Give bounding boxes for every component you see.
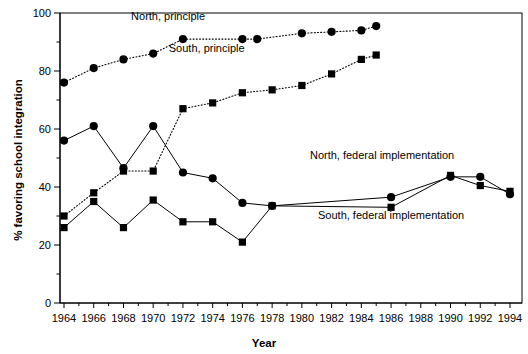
data-point-marker [60, 137, 68, 145]
data-point-marker [328, 28, 336, 36]
series-label: South, principle [169, 42, 245, 54]
data-point-marker [253, 35, 261, 43]
data-point-marker [358, 56, 365, 63]
data-point-marker [209, 218, 216, 225]
x-tick-label: 1970 [141, 312, 165, 324]
series-label: North, federal implementation [310, 149, 454, 161]
data-point-marker [328, 70, 335, 77]
y-tick-label: 60 [39, 123, 51, 135]
data-point-marker [119, 55, 127, 63]
data-point-marker [119, 164, 127, 172]
x-axis-title: Year [252, 337, 277, 349]
data-point-marker [298, 82, 305, 89]
data-point-marker [90, 189, 97, 196]
data-point-marker [239, 239, 246, 246]
data-point-marker [90, 122, 98, 130]
x-tick-label: 1992 [468, 312, 492, 324]
data-point-marker [120, 224, 127, 231]
data-point-marker [269, 86, 276, 93]
x-tick-label: 1978 [260, 312, 284, 324]
data-point-marker [372, 22, 380, 30]
data-point-marker [269, 202, 276, 209]
data-point-marker [60, 224, 67, 231]
data-point-marker [373, 51, 380, 58]
y-tick-label: 80 [39, 65, 51, 77]
data-point-marker [60, 79, 68, 87]
y-tick-label: 40 [39, 181, 51, 193]
data-point-marker [179, 218, 186, 225]
data-point-marker [238, 199, 246, 207]
x-tick-label: 1988 [409, 312, 433, 324]
series-label: North, principle [131, 10, 205, 22]
data-point-marker [90, 198, 97, 205]
x-tick-label: 1968 [111, 312, 135, 324]
y-tick-label: 20 [39, 239, 51, 251]
y-tick-label: 0 [45, 297, 51, 309]
data-point-marker [90, 64, 98, 72]
data-point-marker [477, 182, 484, 189]
x-tick-label: 1976 [230, 312, 254, 324]
data-point-marker [150, 196, 157, 203]
data-point-marker [150, 167, 157, 174]
x-tick-label: 1986 [379, 312, 403, 324]
x-tick-label: 1980 [290, 312, 314, 324]
data-point-marker [447, 172, 454, 179]
x-tick-label: 1982 [319, 312, 343, 324]
data-point-marker [476, 173, 484, 181]
x-tick-label: 1974 [200, 312, 224, 324]
school-integration-line-chart: 020406080100 196419661968197019721974197… [0, 0, 528, 354]
x-tick-label: 1984 [349, 312, 373, 324]
data-point-marker [209, 174, 217, 182]
data-point-marker [60, 212, 67, 219]
series-label: South, federal implementation [318, 209, 464, 221]
data-point-marker [239, 89, 246, 96]
data-point-marker [179, 105, 186, 112]
x-tick-label: 1972 [171, 312, 195, 324]
x-tick-label: 1994 [498, 312, 522, 324]
x-tick-label: 1990 [438, 312, 462, 324]
data-point-marker [209, 99, 216, 106]
data-point-marker [506, 188, 513, 195]
y-axis-title: % favoring school integration [12, 79, 24, 241]
data-point-marker [149, 50, 157, 58]
data-point-marker [179, 168, 187, 176]
x-tick-label: 1966 [81, 312, 105, 324]
data-point-marker [387, 193, 395, 201]
data-point-marker [357, 26, 365, 34]
data-point-marker [149, 122, 157, 130]
data-point-marker [298, 29, 306, 37]
chart-figure: 020406080100 196419661968197019721974197… [0, 0, 528, 354]
x-tick-label: 1964 [52, 312, 76, 324]
y-tick-label: 100 [33, 7, 51, 19]
